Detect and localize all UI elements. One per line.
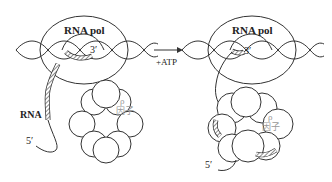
right-rna-pol-label: RNA pol <box>232 24 273 36</box>
left-rho-label: 因子 <box>116 106 134 116</box>
arrow-atp-label: +ATP <box>156 57 177 67</box>
left-3prime-label: 3′ <box>90 44 97 55</box>
left-panel: RNA pol 3′ RNA 5′ ρ 因子 <box>16 16 158 163</box>
left-rna-tail <box>36 120 57 152</box>
right-rho-factor <box>208 87 293 162</box>
right-rho-label: 因子 <box>262 122 280 132</box>
right-3prime-label: 3′ <box>244 45 251 56</box>
left-rna-label: RNA <box>20 109 42 120</box>
right-rho-symbol: ρ <box>268 112 273 122</box>
reaction-arrow: +ATP <box>154 47 183 67</box>
right-5prime-label: 5′ <box>205 159 212 170</box>
left-5prime-label: 5′ <box>26 135 33 146</box>
right-panel: RNA pol 3′ 5′ ρ 因子 <box>182 16 324 171</box>
left-rna-pol-label: RNA pol <box>64 24 105 36</box>
left-rho-factor <box>69 80 143 163</box>
left-rho-symbol: ρ <box>120 96 125 106</box>
diagram-canvas: RNA pol 3′ RNA 5′ ρ 因子 +ATP <box>0 0 332 182</box>
right-dna-helix <box>182 41 324 59</box>
